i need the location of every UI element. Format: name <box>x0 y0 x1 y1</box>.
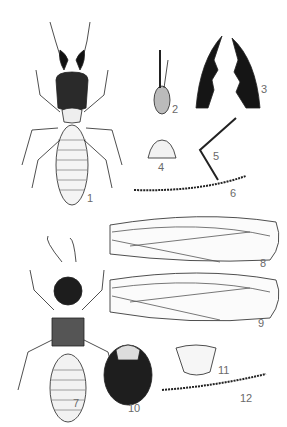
plate-drawing <box>0 0 287 427</box>
figure-11-pronotum <box>176 345 216 375</box>
figure-12-antenna <box>162 374 266 390</box>
figure-8-forewing <box>110 217 279 261</box>
figure-3-mandibles <box>196 36 260 108</box>
figure-7-imago <box>18 236 118 422</box>
figure-label-2: 2 <box>172 104 178 115</box>
figure-label-9: 9 <box>258 318 264 329</box>
figure-label-4: 4 <box>158 162 164 173</box>
figure-label-3: 3 <box>261 84 267 95</box>
figure-4-labrum <box>148 140 176 158</box>
figure-label-1: 1 <box>87 193 93 204</box>
figure-label-8: 8 <box>260 258 266 269</box>
figure-5-leg <box>200 118 236 180</box>
illustration-plate: 1 2 3 4 5 6 7 8 9 10 11 12 <box>0 0 287 427</box>
figure-1-soldier <box>22 22 122 205</box>
figure-label-5: 5 <box>213 151 219 162</box>
figure-label-7: 7 <box>73 398 79 409</box>
figure-2-head-lateral <box>154 50 170 114</box>
figure-label-11: 11 <box>218 365 229 376</box>
figure-label-6: 6 <box>230 188 236 199</box>
figure-label-12: 12 <box>240 393 252 404</box>
figure-label-10: 10 <box>128 403 140 414</box>
figure-9-hindwing <box>110 273 279 321</box>
